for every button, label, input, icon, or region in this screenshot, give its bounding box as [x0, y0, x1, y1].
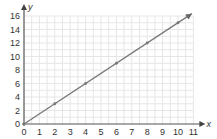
data-point	[146, 42, 149, 45]
data-point	[23, 123, 26, 126]
x-tick-label: 1	[37, 127, 42, 137]
data-point	[115, 62, 118, 65]
y-axis-label: y	[27, 2, 33, 12]
data-point	[177, 21, 180, 24]
y-tick-label: 6	[15, 79, 20, 89]
data-point	[84, 82, 87, 85]
x-tick-label: 2	[52, 127, 57, 137]
y-tick-label: 0	[15, 119, 20, 129]
y-tick-label: 8	[15, 65, 20, 75]
x-tick-label: 7	[129, 127, 134, 137]
x-tick-label: 10	[173, 127, 183, 137]
x-tick-label: 8	[145, 127, 150, 137]
y-tick-label: 16	[10, 11, 20, 21]
y-tick-label: 2	[15, 106, 20, 116]
x-tick-label: 5	[98, 127, 103, 137]
x-tick-label: 9	[160, 127, 165, 137]
data-point	[53, 102, 56, 105]
x-tick-label: 4	[83, 127, 88, 137]
y-tick-label: 4	[15, 92, 20, 102]
y-tick-label: 10	[10, 52, 20, 62]
x-tick-label: 6	[114, 127, 119, 137]
y-axis-arrow-icon	[21, 4, 27, 10]
x-tick-label: 3	[68, 127, 73, 137]
y-tick-label: 14	[10, 25, 20, 35]
line-chart: 012345678910110246810121416 x y	[0, 0, 217, 139]
x-axis-arrow-icon	[199, 121, 205, 127]
y-tick-label: 12	[10, 38, 20, 48]
x-tick-label: 11	[189, 127, 198, 137]
x-axis-label: x	[205, 119, 211, 129]
series-line	[24, 14, 192, 124]
x-tick-label: 0	[21, 127, 26, 137]
